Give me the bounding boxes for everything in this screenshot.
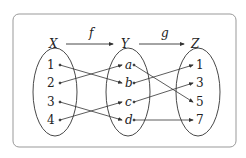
- g-arrow-c-3: [134, 83, 193, 102]
- g-arrow-b-1: [134, 65, 193, 83]
- z-element-7: 7: [196, 113, 204, 127]
- function-g-label: g: [161, 26, 169, 40]
- y-element-b: b: [125, 76, 133, 90]
- y-element-a: a: [125, 58, 132, 72]
- g-mappings: [133, 64, 193, 121]
- z-element-5: 5: [196, 95, 204, 109]
- g-arrow-a-5: [134, 65, 193, 102]
- set-x-label: X: [48, 37, 58, 51]
- f-mappings: [59, 64, 122, 121]
- set-x-ellipse: [33, 48, 77, 136]
- function-composition-diagram: X Y Z f g 1 2 3 4 a b c d 1 3 5 7: [0, 0, 246, 158]
- z-element-3: 3: [196, 76, 204, 90]
- x-element-4: 4: [47, 113, 55, 127]
- y-element-d: d: [125, 113, 133, 127]
- set-z-label: Z: [190, 37, 200, 51]
- function-f-label: f: [88, 26, 96, 40]
- x-element-2: 2: [47, 76, 55, 90]
- x-element-1: 1: [47, 58, 55, 72]
- set-y-label: Y: [121, 37, 130, 51]
- z-element-1: 1: [196, 58, 204, 72]
- y-element-c: c: [125, 95, 132, 109]
- x-element-3: 3: [47, 95, 55, 109]
